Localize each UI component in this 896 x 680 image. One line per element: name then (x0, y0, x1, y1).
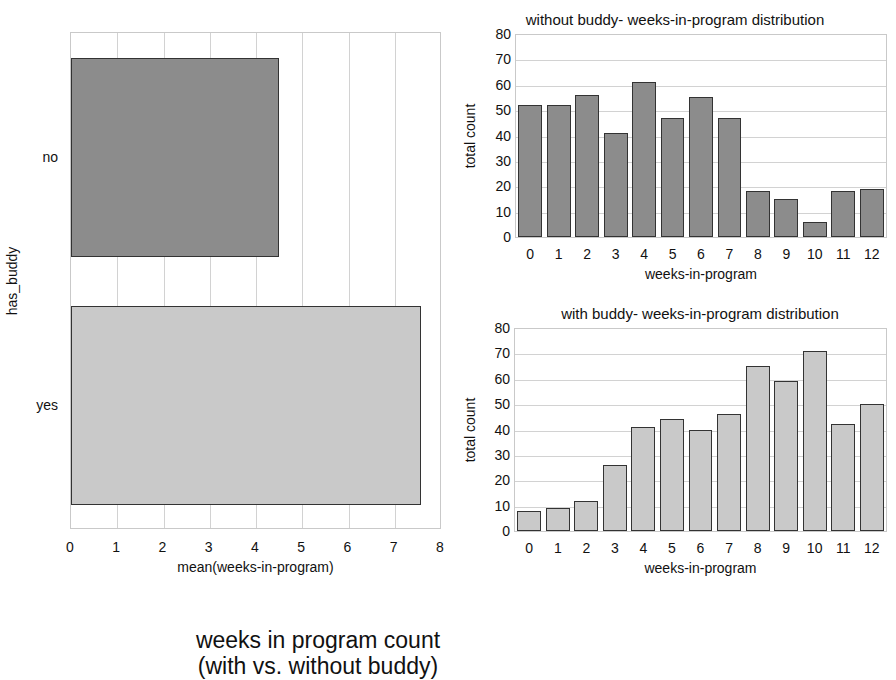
y-gridline (516, 86, 886, 87)
y-tick-label: 80 (495, 26, 511, 42)
bar-week-7 (717, 414, 741, 531)
y-tick-label: 20 (494, 472, 510, 488)
y-tick-label: 40 (494, 422, 510, 438)
bar-week-5 (661, 118, 685, 237)
y-category-label: yes (36, 397, 58, 413)
bar-week-3 (604, 133, 628, 237)
without-buddy-title: without buddy- weeks-in-program distribu… (526, 11, 824, 28)
x-tick-label: 5 (668, 540, 676, 556)
x-tick-label: 0 (66, 539, 74, 555)
x-tick-label: 1 (554, 540, 562, 556)
x-tick-label: 3 (611, 540, 619, 556)
x-tick-label: 6 (697, 246, 705, 262)
mean-y-axis-label: has_buddy (4, 246, 20, 315)
bar-week-6 (689, 97, 713, 237)
mean-plot-area (70, 32, 441, 529)
figure-title-line2: (with vs. without buddy) (198, 652, 438, 680)
y-tick-label: 70 (495, 51, 511, 67)
bar-week-10 (803, 222, 827, 237)
bar-yes (71, 306, 421, 505)
y-tick-label: 50 (494, 396, 510, 412)
bar-week-2 (575, 95, 599, 237)
without-buddy-y-axis-label: total count (462, 104, 478, 169)
with-buddy-y-axis-label: total count (462, 398, 478, 463)
x-tick-label: 10 (807, 540, 823, 556)
y-tick-label: 10 (495, 204, 511, 220)
y-tick-label: 10 (494, 498, 510, 514)
bar-week-8 (746, 191, 770, 237)
with-buddy-plot-area (514, 328, 887, 532)
x-tick-label: 8 (754, 540, 762, 556)
bar-week-12 (860, 404, 884, 531)
x-tick-label: 9 (782, 540, 790, 556)
x-tick-label: 2 (582, 540, 590, 556)
y-gridline (515, 380, 886, 381)
x-tick-label: 9 (782, 246, 790, 262)
x-tick-label: 7 (390, 539, 398, 555)
bar-week-10 (803, 351, 827, 531)
bar-week-4 (632, 82, 656, 237)
y-gridline (516, 60, 886, 61)
y-tick-label: 80 (494, 320, 510, 336)
y-tick-label: 60 (495, 77, 511, 93)
bar-week-0 (518, 105, 542, 237)
mean-x-axis-label: mean(weeks-in-program) (177, 559, 333, 575)
x-tick-label: 4 (640, 540, 648, 556)
x-tick-label: 4 (640, 246, 648, 262)
bar-week-1 (546, 508, 570, 531)
y-tick-label: 30 (494, 447, 510, 463)
bar-week-6 (689, 430, 713, 532)
bar-week-3 (603, 465, 627, 531)
y-tick-label: 40 (495, 128, 511, 144)
without-buddy-x-axis-label: weeks-in-program (645, 266, 757, 282)
x-tick-label: 7 (725, 540, 733, 556)
y-gridline (515, 405, 886, 406)
x-tick-label: 12 (864, 540, 880, 556)
x-tick-label: 12 (864, 246, 880, 262)
x-tick-label: 0 (525, 540, 533, 556)
bar-week-11 (831, 424, 855, 531)
bar-week-4 (631, 427, 655, 531)
bar-week-12 (860, 189, 884, 237)
x-tick-label: 10 (807, 246, 823, 262)
without-buddy-plot-area (515, 34, 887, 238)
x-tick-label: 2 (583, 246, 591, 262)
x-tick-label: 1 (112, 539, 120, 555)
bar-week-9 (774, 381, 798, 531)
bar-week-2 (574, 501, 598, 531)
bar-week-8 (746, 366, 770, 531)
bar-week-9 (774, 199, 798, 237)
x-tick-label: 8 (754, 246, 762, 262)
bar-week-7 (718, 118, 742, 237)
y-tick-label: 0 (502, 523, 510, 539)
y-tick-label: 70 (494, 345, 510, 361)
y-tick-label: 20 (495, 178, 511, 194)
x-tick-label: 8 (436, 539, 444, 555)
x-tick-label: 7 (726, 246, 734, 262)
x-tick-label: 3 (612, 246, 620, 262)
y-tick-label: 0 (503, 229, 511, 245)
with-buddy-title: with buddy- weeks-in-program distributio… (561, 305, 839, 322)
bar-week-0 (517, 511, 541, 531)
bar-week-11 (831, 191, 855, 237)
bar-no (71, 58, 279, 257)
y-gridline (515, 354, 886, 355)
y-tick-label: 60 (494, 371, 510, 387)
x-tick-label: 6 (697, 540, 705, 556)
x-tick-label: 1 (555, 246, 563, 262)
bar-week-5 (660, 419, 684, 531)
x-tick-label: 2 (159, 539, 167, 555)
x-tick-label: 4 (251, 539, 259, 555)
y-category-label: no (42, 149, 58, 165)
x-tick-label: 3 (205, 539, 213, 555)
y-tick-label: 50 (495, 102, 511, 118)
with-buddy-x-axis-label: weeks-in-program (644, 560, 756, 576)
x-tick-label: 6 (344, 539, 352, 555)
x-tick-label: 0 (526, 246, 534, 262)
figure-title-line1: weeks in program count (196, 626, 440, 654)
x-tick-label: 5 (669, 246, 677, 262)
y-tick-label: 30 (495, 153, 511, 169)
x-tick-label: 11 (836, 246, 851, 262)
x-tick-label: 11 (836, 540, 851, 556)
bar-week-1 (547, 105, 571, 237)
